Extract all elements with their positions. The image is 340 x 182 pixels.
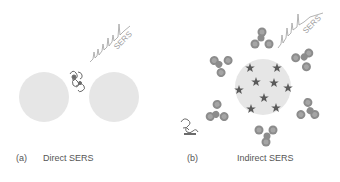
spectrum-label-b: SERS	[301, 14, 323, 36]
panel-b-title: Indirect SERS	[237, 153, 294, 163]
protein-icon-b	[181, 119, 198, 134]
panel-a-direct-sers: SERS	[19, 24, 139, 122]
gold-nanoparticle-center	[235, 59, 291, 115]
panel-b-label: (b)	[187, 153, 198, 163]
panel-b-indirect-sers: SERS	[181, 13, 324, 147]
panel-a-label: (a)	[16, 153, 27, 163]
gold-nanoparticle-left	[19, 72, 69, 122]
protein-icon	[70, 71, 85, 92]
gold-nanoparticle-right	[89, 72, 139, 122]
spectrum-label-a: SERS	[112, 30, 134, 52]
panel-a-title: Direct SERS	[43, 153, 94, 163]
